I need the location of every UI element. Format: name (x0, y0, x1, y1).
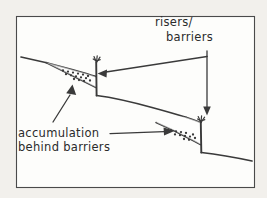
wedge-one-stipple-dot (70, 74, 72, 76)
risers-label-line1: risers/ (155, 15, 193, 29)
accumulation-label-line1: accumulation (18, 126, 99, 140)
risers-label-line2: barriers (166, 30, 213, 44)
wedge-two-stipple-dot (179, 134, 181, 136)
wedge-two-stipple-dot (194, 137, 196, 139)
accumulation-label-line2: behind barriers (18, 140, 110, 154)
wedge-two-stipple-dot (175, 130, 177, 132)
wedge-two-stipple-dot (184, 135, 186, 137)
wedge-one-stipple-dot (87, 75, 89, 77)
wedge-two-stipple-dot (180, 131, 182, 133)
wedge-one-stipple-dot (83, 80, 85, 82)
drawing-frame (17, 17, 255, 188)
wedge-one-stipple-dot (62, 69, 64, 71)
wedge-one-stipple-dot (67, 70, 69, 72)
wedge-two-stipple-dot (192, 133, 194, 135)
wedge-one-stipple-dot (82, 73, 84, 75)
wedge-two-stipple-dot (185, 132, 187, 134)
wedge-one-stipple-dot (73, 78, 75, 80)
wedge-one-stipple-dot (89, 79, 91, 81)
riser-two (201, 123, 202, 153)
wedge-one-stipple-dot (85, 77, 87, 79)
wedge-two-stipple-dot (189, 135, 191, 137)
wedge-two-stipple-dot (183, 138, 185, 140)
wedge-one-stipple-dot (72, 71, 74, 73)
sketch-canvas: risers/ barriers accumulation behind bar… (0, 0, 267, 198)
wedge-one-stipple-dot (75, 75, 77, 77)
wedge-one-stipple-dot (77, 72, 79, 74)
wedge-one-stipple-dot (80, 76, 82, 78)
wedge-two-stipple-dot (188, 139, 190, 141)
wedge-one-stipple-dot (78, 79, 80, 81)
wedge-two-stipple-dot (174, 133, 176, 135)
wedge-one-stipple-dot (65, 73, 67, 75)
hillslope-terrace-diagram: risers/ barriers accumulation behind bar… (0, 0, 267, 198)
